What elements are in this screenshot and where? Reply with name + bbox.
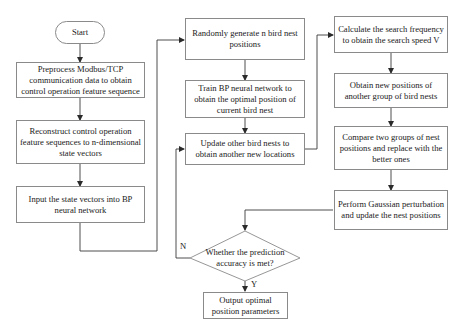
output-label: Output optimal position parameters (207, 295, 284, 317)
preprocess-label: Preprocess Modbus/TCP communication data… (20, 64, 141, 97)
calculate-label: Calculate the search frequency to obtain… (338, 24, 444, 46)
no-edge-label: N (180, 241, 186, 251)
random-label: Randomly generate n bird nest positions (189, 28, 301, 50)
obtain-label: Obtain new positions of another group of… (338, 80, 444, 102)
update-label: Update other bird nests to obtain anothe… (189, 138, 301, 160)
obtain-node: Obtain new positions of another group of… (334, 73, 448, 108)
input-node: Input the state vectors into BP neural n… (16, 186, 145, 223)
edge-update-calculate (305, 35, 333, 149)
compare-node: Compare two groups of nest positions and… (334, 126, 448, 170)
calculate-node: Calculate the search frequency to obtain… (334, 16, 448, 53)
output-node: Output optimal position parameters (203, 292, 288, 319)
random-node: Randomly generate n bird nest positions (185, 18, 305, 60)
start-label: Start (72, 27, 88, 38)
preprocess-node: Preprocess Modbus/TCP communication data… (16, 62, 145, 98)
gaussian-node: Perform Gaussian perturbation and update… (334, 190, 448, 230)
gaussian-label: Perform Gaussian perturbation and update… (338, 199, 444, 221)
reconstruct-node: Reconstruct control operation feature se… (16, 120, 145, 164)
input-label: Input the state vectors into BP neural n… (20, 194, 141, 216)
train-label: Train BP neural network to obtain the op… (189, 83, 301, 116)
edge-gaussian-decision (245, 210, 333, 230)
train-node: Train BP neural network to obtain the op… (185, 80, 305, 118)
decision-label-box: Whether the prediction accuracy is met? (205, 243, 285, 273)
compare-label: Compare two groups of nest positions and… (338, 132, 444, 165)
start-node: Start (55, 21, 105, 44)
yes-edge-label: Y (251, 279, 257, 289)
update-node: Update other bird nests to obtain anothe… (185, 133, 305, 165)
decision-label: Whether the prediction accuracy is met? (205, 247, 285, 269)
reconstruct-label: Reconstruct control operation feature se… (20, 126, 141, 159)
